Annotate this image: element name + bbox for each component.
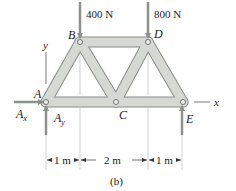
joint-label-a: A xyxy=(33,87,42,101)
y-axis-label: y xyxy=(42,39,48,51)
joint-label-e: E xyxy=(185,112,194,126)
pin-d xyxy=(146,40,151,45)
figure-caption: (b) xyxy=(110,175,123,188)
truss-diagram: y x A B C D E xyxy=(0,0,236,191)
dimension-label-bd: 2 m xyxy=(104,154,121,166)
joint-label-b: B xyxy=(68,28,76,42)
pin-c xyxy=(114,100,119,105)
x-axis-label: x xyxy=(213,96,219,108)
dimension-label-de: 1 m xyxy=(156,154,173,166)
load-label-800n: 800 N xyxy=(154,8,181,20)
joint-label-d: D xyxy=(153,27,163,41)
load-label-400n: 400 N xyxy=(86,8,113,20)
pin-b xyxy=(78,40,83,45)
pin-e xyxy=(181,100,186,105)
dimension-label-ab: 1 m xyxy=(54,154,71,166)
pin-a xyxy=(44,100,49,105)
reaction-label-ax: Ax xyxy=(15,107,27,123)
truss-members xyxy=(46,42,183,102)
joint-label-c: C xyxy=(119,108,128,122)
reaction-label-ay: Ay xyxy=(53,111,65,127)
